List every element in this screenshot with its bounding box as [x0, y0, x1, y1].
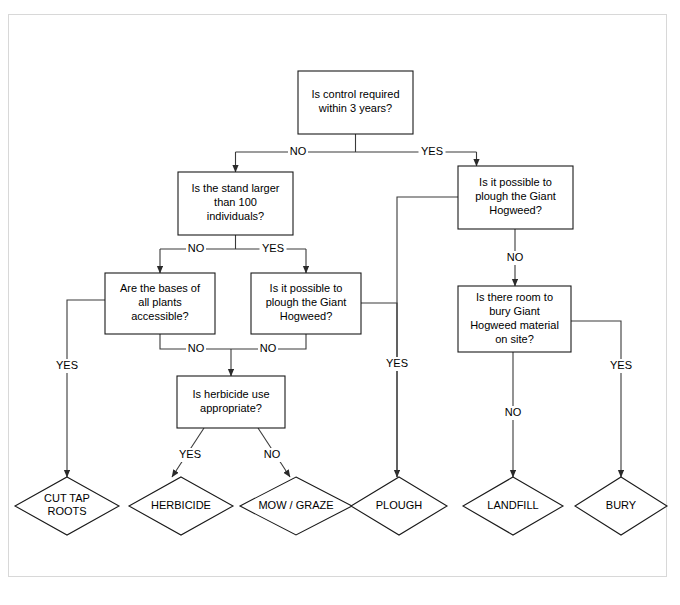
- connector-bury-q-yes-to-bury: [571, 321, 621, 477]
- edge-label-text: YES: [610, 359, 632, 371]
- decision-text-line: Hogweed?: [280, 310, 333, 322]
- decision-text-line: bury Giant: [489, 305, 540, 317]
- terminal-node-cut-tap-roots: CUT TAPROOTS: [15, 477, 119, 535]
- edge-label-text: YES: [421, 145, 443, 157]
- decision-text-line: Is herbicide use: [192, 388, 269, 400]
- edge-label-label-stand-yes: YES: [260, 242, 287, 256]
- terminal-text-line: HERBICIDE: [151, 499, 211, 511]
- edge-label-text: YES: [386, 357, 408, 369]
- terminal-text-line: CUT TAP: [44, 492, 90, 504]
- edge-label-text: NO: [507, 251, 524, 263]
- terminal-node-bury: BURY: [575, 477, 667, 535]
- decision-text-line: plough the Giant: [266, 296, 347, 308]
- decision-text-line: Are the bases of: [120, 282, 201, 294]
- edge-label-text: NO: [188, 342, 205, 354]
- decision-text-line: Is control required: [311, 88, 399, 100]
- edge-label-text: NO: [290, 145, 307, 157]
- decision-text-line: Is there room to: [476, 291, 553, 303]
- edge-label-label-bury-no: NO: [503, 406, 523, 420]
- edge-label-label-herbicide-yes: YES: [177, 448, 204, 462]
- decision-text-line: on site?: [495, 333, 534, 345]
- terminal-text-line: MOW / GRAZE: [258, 499, 333, 511]
- connector-bases-yes-to-cut: [67, 300, 105, 477]
- decision-text-line: all plants: [138, 296, 182, 308]
- decision-text-line: Hogweed?: [489, 204, 542, 216]
- edge-label-text: NO: [260, 342, 277, 354]
- connector-plough-left-yes-to-plough: [361, 303, 397, 477]
- edge-label-label-bury-yes: YES: [608, 359, 635, 373]
- terminal-nodes-layer: CUT TAPROOTSHERBICIDEMOW / GRAZEPLOUGHLA…: [15, 477, 667, 535]
- edge-label-label-control-yes: YES: [419, 145, 446, 159]
- connector-plough-right-yes-to-plough: [397, 197, 458, 477]
- edge-label-text: YES: [56, 359, 78, 371]
- decision-text-line: than 100: [214, 196, 257, 208]
- terminal-node-mow-graze: MOW / GRAZE: [240, 477, 352, 535]
- decision-text-line: Hogweed material: [470, 319, 559, 331]
- edge-label-text: NO: [505, 406, 522, 418]
- terminal-text-line: BURY: [606, 499, 637, 511]
- decision-node-room-to-bury: Is there room tobury GiantHogweed materi…: [458, 286, 571, 352]
- edge-label-label-bases-yes: YES: [54, 359, 81, 373]
- edge-label-label-plough-yes: YES: [384, 357, 411, 371]
- decision-node-plough-left: Is it possible toplough the GiantHogweed…: [251, 273, 361, 334]
- decision-text-line: Is the stand larger: [191, 182, 279, 194]
- flowchart-page: Is control requiredwithin 3 years?Is the…: [0, 0, 680, 605]
- decision-text-line: within 3 years?: [318, 102, 392, 114]
- terminal-node-landfill: LANDFILL: [463, 477, 563, 535]
- decision-text-line: Is it possible to: [270, 282, 343, 294]
- edge-label-text: YES: [179, 448, 201, 460]
- terminal-text-line: LANDFILL: [487, 499, 538, 511]
- edge-label-text: NO: [264, 448, 281, 460]
- edge-label-label-herbicide-no: NO: [262, 448, 282, 462]
- decision-node-bases-accessible: Are the bases ofall plantsaccessible?: [105, 273, 215, 334]
- flowchart-canvas: Is control requiredwithin 3 years?Is the…: [0, 0, 680, 605]
- edge-label-text: YES: [262, 242, 284, 254]
- decision-node-stand-larger: Is the stand largerthan 100individuals?: [178, 172, 293, 235]
- decision-node-plough-right: Is it possible toplough the GiantHogweed…: [458, 166, 573, 229]
- edge-label-label-plough-right-no: NO: [505, 251, 525, 265]
- decision-node-herbicide-appropriate: Is herbicide useappropriate?: [177, 376, 285, 428]
- edge-label-label-plough-left-no: NO: [258, 342, 278, 356]
- decision-text-line: individuals?: [207, 210, 264, 222]
- edge-label-label-bases-no: NO: [186, 342, 206, 356]
- edge-label-label-control-no: NO: [288, 145, 308, 159]
- decision-text-line: plough the Giant: [475, 190, 556, 202]
- edge-label-text: NO: [188, 242, 205, 254]
- terminal-node-plough: PLOUGH: [351, 477, 447, 535]
- terminal-text-line: PLOUGH: [376, 499, 423, 511]
- decision-text-line: appropriate?: [200, 402, 262, 414]
- terminal-text-line: ROOTS: [47, 505, 86, 517]
- decision-text-line: accessible?: [131, 310, 188, 322]
- decision-node-control-required: Is control requiredwithin 3 years?: [298, 71, 413, 134]
- edge-label-label-stand-no: NO: [186, 242, 206, 256]
- terminal-node-herbicide: HERBICIDE: [129, 477, 233, 535]
- decision-text-line: Is it possible to: [479, 176, 552, 188]
